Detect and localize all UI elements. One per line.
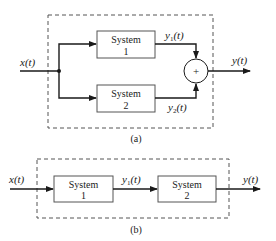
output-label-b: y(t): [242, 173, 259, 186]
y2-label-a: y2(t): [167, 101, 187, 115]
system2-block-b: System 2: [158, 176, 216, 202]
parallel-diagram: System 1 System 2 + x(t) y(t) y1(t) y2(t…: [19, 15, 250, 145]
plus-sign: +: [193, 65, 199, 77]
y2-wire: [155, 84, 196, 98]
system1-number: 1: [124, 46, 129, 57]
system2-block-a: System 2: [97, 85, 155, 112]
system-diagrams: System 1 System 2 + x(t) y(t) y1(t) y2(t…: [0, 0, 276, 241]
system1-number: 1: [81, 190, 86, 201]
branch-to-system1: [59, 44, 96, 71]
system1-block-a: System 1: [97, 31, 155, 58]
input-label-b: x(t): [8, 173, 25, 186]
system2-label: System: [172, 179, 202, 190]
output-label-a: y(t): [231, 54, 248, 67]
system1-label: System: [69, 179, 99, 190]
system1-label: System: [111, 34, 141, 45]
cascade-diagram: System 1 System 2 x(t) y1(t) y(t) (b): [8, 159, 260, 236]
caption-a: (a): [130, 133, 141, 145]
caption-b: (b): [130, 224, 142, 236]
summing-junction: +: [184, 59, 208, 83]
input-label-a: x(t): [19, 56, 36, 69]
y1-wire: [155, 44, 196, 58]
system2-label: System: [111, 88, 141, 99]
system1-block-b: System 1: [54, 176, 113, 202]
y1-label-b: y1(t): [121, 173, 141, 187]
system2-number: 2: [124, 100, 129, 111]
y1-label-a: y1(t): [164, 29, 184, 43]
branch-to-system2: [59, 71, 96, 98]
system2-number: 2: [185, 190, 190, 201]
